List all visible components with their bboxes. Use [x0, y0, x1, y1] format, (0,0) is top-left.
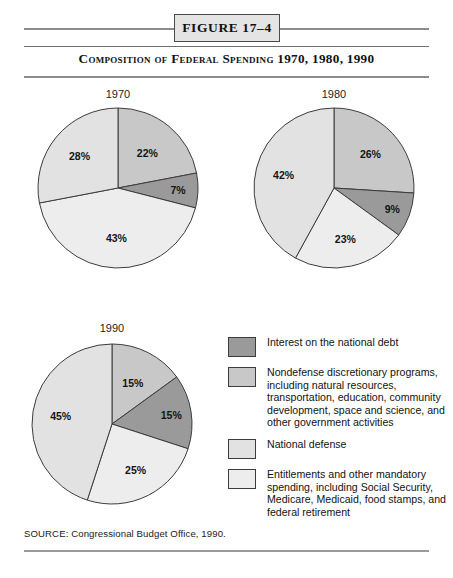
legend-swatch-interest: [228, 337, 256, 357]
pie-chart-1980: 1980 26%9%23%42%: [246, 88, 422, 274]
pie-chart-1990: 1990 15%15%25%45%: [24, 322, 200, 512]
pie-slice-label: 15%: [122, 377, 144, 389]
legend-label-interest: Interest on the national debt: [267, 336, 398, 349]
legend-item-entitlements: Entitlements and other mandatory spendin…: [228, 468, 446, 518]
legend-item-national-defense: National defense: [228, 438, 446, 459]
legend-swatch-nondefense: [228, 367, 256, 387]
pie-chart-1970: 1970 22%7%43%28%: [30, 88, 206, 274]
legend-item-nondefense: Nondefense discretionary programs, inclu…: [228, 366, 446, 429]
pie-title-1980: 1980: [246, 88, 422, 100]
legend-swatch-national-defense: [228, 439, 256, 459]
pie-slice-label: 23%: [335, 233, 357, 245]
footer-rule: [24, 550, 429, 552]
pie-slice-label: 26%: [360, 148, 382, 160]
header-rule-middle: [24, 46, 429, 47]
legend-swatch-entitlements: [228, 469, 256, 489]
legend-label-entitlements: Entitlements and other mandatory spendin…: [267, 468, 446, 518]
header-rule-bottom: [24, 76, 429, 78]
pie-title-1970: 1970: [30, 88, 206, 100]
legend-label-national-defense: National defense: [267, 438, 347, 451]
pie-slice-label: 25%: [125, 464, 147, 476]
pie-slice-label: 15%: [161, 409, 183, 421]
pie-slice-label: 7%: [170, 184, 186, 196]
figure-header: FIGURE 17–4 Composition of Federal Spend…: [0, 0, 453, 80]
legend: Interest on the national debt Nondefense…: [228, 336, 446, 527]
pie-slice-label: 9%: [385, 203, 401, 215]
pie-title-1990: 1990: [24, 322, 200, 334]
pie-svg-1980: 26%9%23%42%: [246, 104, 422, 274]
header-rule-left: [24, 28, 176, 30]
legend-label-nondefense: Nondefense discretionary programs, inclu…: [267, 366, 446, 429]
source-note: SOURCE: Congressional Budget Office, 199…: [24, 528, 226, 539]
header-rule-right: [278, 28, 429, 30]
figure-title: Composition of Federal Spending 1970, 19…: [0, 51, 453, 67]
pie-svg-1990: 15%15%25%45%: [24, 338, 200, 512]
pie-slice-label: 43%: [106, 232, 128, 244]
legend-item-interest: Interest on the national debt: [228, 336, 446, 357]
pie-slice-label: 42%: [273, 169, 295, 181]
pie-slice-label: 28%: [69, 150, 91, 162]
pie-svg-1970: 22%7%43%28%: [30, 104, 206, 274]
pie-slice-label: 22%: [137, 147, 159, 159]
figure-number-badge: FIGURE 17–4: [174, 14, 280, 42]
pie-slice-label: 45%: [50, 410, 72, 422]
